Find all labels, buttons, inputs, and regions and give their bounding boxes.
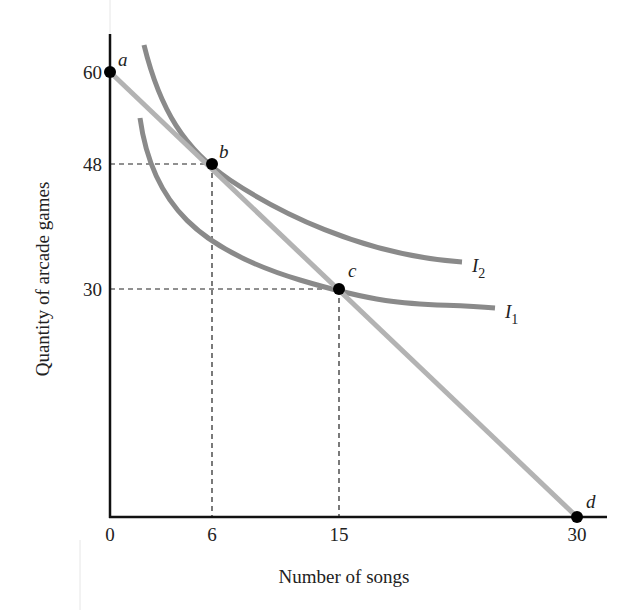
x-axis-label: Number of songs bbox=[279, 566, 410, 587]
y-tick-48: 48 bbox=[83, 154, 102, 175]
point-a bbox=[104, 66, 116, 78]
guide-lines bbox=[110, 164, 339, 517]
x-tick-6: 6 bbox=[207, 524, 217, 545]
point-b bbox=[206, 158, 218, 170]
budget-line bbox=[110, 72, 577, 517]
x-tick-30: 30 bbox=[568, 524, 587, 545]
y-tick-30: 30 bbox=[83, 279, 102, 300]
point-b-label: b bbox=[219, 141, 229, 162]
point-d-label: d bbox=[586, 491, 596, 512]
indifference-curve-i2 bbox=[144, 45, 462, 262]
point-c-label: c bbox=[348, 260, 357, 281]
point-a-label: a bbox=[118, 49, 128, 70]
x-tick-15: 15 bbox=[330, 524, 349, 545]
y-axis-label: Quantity of arcade games bbox=[32, 182, 53, 377]
y-tick-60: 60 bbox=[83, 62, 102, 83]
indifference-curve-chart: a b c d I2 I1 60 48 30 0 6 15 30 Number … bbox=[0, 0, 633, 610]
point-c bbox=[333, 283, 345, 295]
curve-i1-label: I1 bbox=[504, 301, 518, 327]
point-d bbox=[571, 511, 583, 523]
curve-i2-label: I2 bbox=[471, 255, 485, 281]
x-tick-0: 0 bbox=[105, 524, 115, 545]
